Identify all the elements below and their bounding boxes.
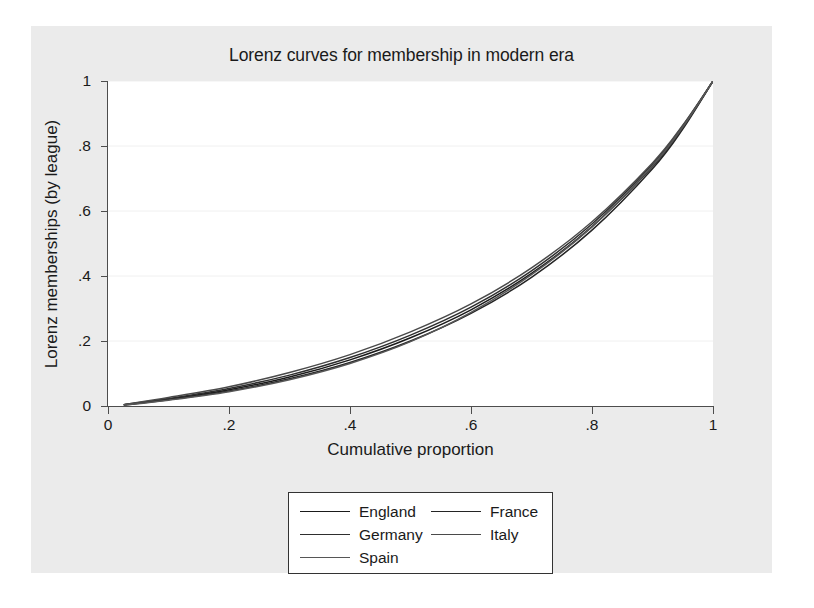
legend-line-swatch-france — [431, 511, 481, 513]
legend-label-germany: Germany — [359, 527, 423, 543]
curve-italy — [124, 81, 713, 404]
y-tick-label-5: 1 — [82, 73, 91, 89]
legend-item-spain[interactable]: Spain — [289, 550, 431, 566]
x-tick-1 — [229, 407, 230, 414]
legend-line-swatch-england — [300, 511, 350, 513]
y-tick-label-1: .2 — [78, 333, 91, 349]
legend-row: GermanyItaly — [289, 523, 552, 546]
curve-germany — [124, 81, 713, 405]
y-axis-title-text: Lorenz memberships (by league) — [42, 119, 62, 368]
x-tick-4 — [592, 407, 593, 414]
x-tick-5 — [713, 407, 714, 414]
y-tick-2: .4 — [101, 276, 108, 277]
gridlines — [108, 81, 713, 341]
chart-legend: EnglandFranceGermanyItalySpain — [288, 492, 553, 574]
lorenz-curves-svg — [108, 81, 713, 406]
x-tick-label-2: .4 — [344, 417, 357, 433]
y-tick-0: 0 — [101, 406, 108, 407]
curve-france — [124, 81, 713, 405]
x-tick-3 — [471, 407, 472, 414]
x-tick-label-4: .8 — [586, 417, 599, 433]
x-axis-line — [107, 406, 714, 407]
legend-line-swatch-germany — [300, 534, 350, 536]
curve-spain — [124, 81, 713, 405]
legend-item-germany[interactable]: Germany — [289, 527, 431, 543]
y-tick-label-4: .8 — [78, 138, 91, 154]
x-tick-2 — [350, 407, 351, 414]
x-tick-0 — [108, 407, 109, 414]
legend-line-swatch-italy — [431, 534, 481, 536]
y-tick-3: .6 — [101, 211, 108, 212]
legend-line-swatch-spain — [300, 557, 350, 559]
y-tick-label-3: .6 — [78, 203, 91, 219]
x-tick-label-0: 0 — [104, 417, 113, 433]
legend-label-italy: Italy — [490, 527, 518, 543]
legend-label-france: France — [490, 504, 538, 520]
legend-item-france[interactable]: France — [431, 504, 551, 520]
plot-wrapper: 0.2.4.6.81 0.2.4.6.81 — [108, 81, 713, 406]
chart-figure: Lorenz curves for membership in modern e… — [31, 26, 772, 573]
y-tick-label-0: 0 — [82, 398, 91, 414]
chart-title: Lorenz curves for membership in modern e… — [31, 45, 772, 66]
legend-row: EnglandFrance — [289, 500, 552, 523]
y-tick-5: 1 — [101, 81, 108, 82]
y-tick-1: .2 — [101, 341, 108, 342]
legend-label-england: England — [359, 504, 416, 520]
y-tick-4: .8 — [101, 146, 108, 147]
curve-series-group — [124, 81, 713, 405]
legend-item-england[interactable]: England — [289, 504, 431, 520]
y-axis-title: Lorenz memberships (by league) — [41, 81, 63, 406]
x-tick-label-5: 1 — [709, 417, 718, 433]
x-tick-label-1: .2 — [223, 417, 236, 433]
legend-label-spain: Spain — [359, 550, 399, 566]
legend-row: Spain — [289, 546, 552, 569]
y-axis-line — [107, 81, 108, 407]
y-tick-label-2: .4 — [78, 268, 91, 284]
x-axis-title: Cumulative proportion — [108, 440, 713, 460]
legend-item-italy[interactable]: Italy — [431, 527, 551, 543]
x-tick-label-3: .6 — [465, 417, 478, 433]
curve-england — [124, 81, 713, 405]
